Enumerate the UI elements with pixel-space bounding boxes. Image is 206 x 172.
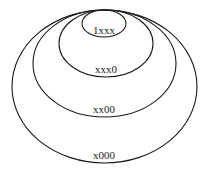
label-xxx0: xxx0	[95, 63, 118, 75]
diagram-canvas: x000 xx00 xxx0 1xxx	[0, 0, 206, 172]
set-xxx0: xxx0	[59, 10, 153, 77]
label-x000: x000	[93, 149, 116, 161]
label-xx00: xx00	[93, 103, 116, 115]
nested-ellipse-diagram: x000 xx00 xxx0 1xxx	[0, 0, 206, 172]
set-1xxx: 1xxx	[82, 10, 126, 37]
label-1xxx: 1xxx	[93, 24, 116, 36]
